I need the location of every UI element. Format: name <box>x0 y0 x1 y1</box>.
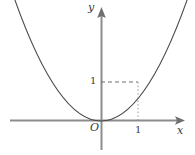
parabola-figure: y x O 1 1 <box>0 0 195 155</box>
y-axis-label: y <box>88 2 94 13</box>
y-tick-label-1: 1 <box>90 76 96 86</box>
origin-label: O <box>90 122 99 133</box>
x-axis-label: x <box>177 125 183 136</box>
x-tick-label-1: 1 <box>135 125 141 135</box>
